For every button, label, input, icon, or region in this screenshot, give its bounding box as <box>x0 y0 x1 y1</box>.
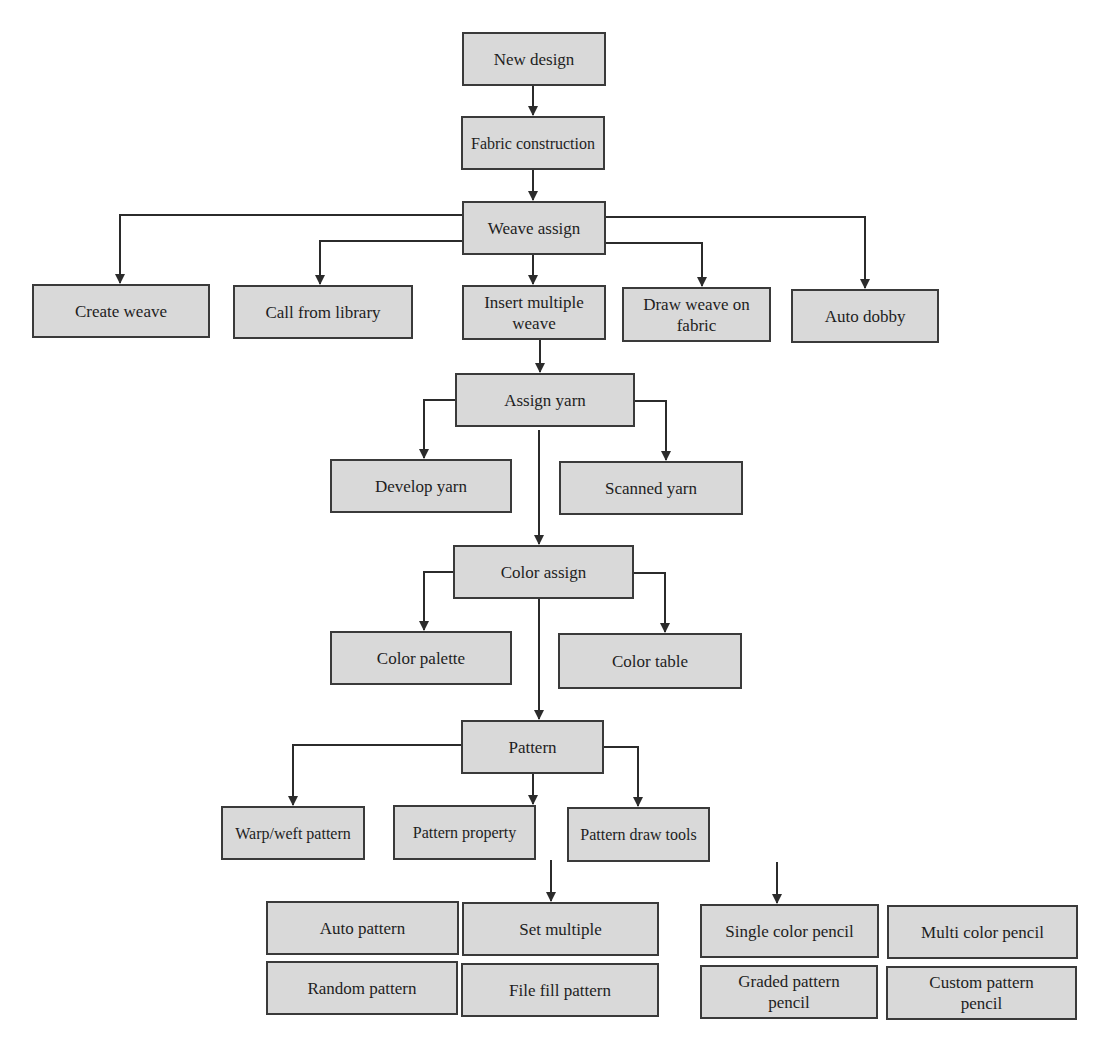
node-random-pattern: Random pattern <box>266 961 458 1015</box>
node-scanned-yarn: Scanned yarn <box>559 461 743 515</box>
edge-assign-yarn-to-scanned-yarn <box>635 401 666 460</box>
edge-weave-assign-to-call-from-library <box>320 241 462 284</box>
node-custom-pattern-pencil: Custom pattern pencil <box>886 966 1077 1020</box>
node-file-fill-pattern: File fill pattern <box>461 963 659 1017</box>
edge-color-assign-to-color-palette <box>424 572 453 630</box>
node-single-color-pencil: Single color pencil <box>700 904 879 958</box>
node-insert-multiple-weave: Insert multiple weave <box>462 285 606 340</box>
node-fabric-construction: Fabric construction <box>461 116 605 170</box>
node-pattern-property: Pattern property <box>393 805 536 860</box>
node-create-weave: Create weave <box>32 284 210 338</box>
node-color-assign: Color assign <box>453 545 634 599</box>
edge-weave-assign-to-draw-weave <box>606 243 702 286</box>
node-set-multiple: Set multiple <box>462 902 659 956</box>
node-call-from-library: Call from library <box>233 285 413 339</box>
edge-color-assign-to-color-table <box>634 573 665 632</box>
node-auto-pattern: Auto pattern <box>266 901 459 955</box>
node-new-design: New design <box>462 32 606 86</box>
node-graded-pattern-pencil: Graded pattern pencil <box>700 965 878 1019</box>
node-pattern-draw-tools: Pattern draw tools <box>567 807 710 862</box>
flowchart-diagram: New design Fabric construction Weave ass… <box>0 0 1113 1047</box>
edge-weave-assign-to-create-weave <box>120 215 462 283</box>
node-multi-color-pencil: Multi color pencil <box>887 905 1078 959</box>
node-develop-yarn: Develop yarn <box>330 459 512 513</box>
node-auto-dobby: Auto dobby <box>791 289 939 343</box>
node-pattern: Pattern <box>461 720 604 774</box>
node-assign-yarn: Assign yarn <box>455 373 635 427</box>
node-draw-weave-on-fabric: Draw weave on fabric <box>622 287 771 342</box>
edge-pattern-to-pattern-draw-tools <box>604 747 638 806</box>
node-weave-assign: Weave assign <box>462 201 606 255</box>
edge-pattern-to-warp-weft-pattern <box>293 745 461 805</box>
node-warp-weft-pattern: Warp/weft pattern <box>221 806 365 860</box>
edge-weave-assign-to-auto-dobby <box>606 217 865 288</box>
node-color-table: Color table <box>558 633 742 689</box>
node-color-palette: Color palette <box>330 631 512 685</box>
edge-assign-yarn-to-develop-yarn <box>424 400 455 458</box>
